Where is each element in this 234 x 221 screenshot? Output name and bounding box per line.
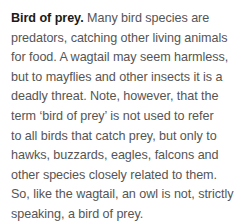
paragraph-line: hawks, buzzards, eagles, falcons and (11, 146, 222, 166)
paragraph-line: So, like the wagtail, an owl is not, str… (11, 185, 222, 205)
paragraph-line: to all birds that catch prey, but only t… (11, 127, 222, 147)
paragraph-line: for food. A wagtail may seem harmless, (11, 48, 222, 68)
paragraph-line: predators, catching other living animals (11, 29, 222, 49)
paragraph-line-1: Bird of prey. Many bird species are (11, 9, 222, 29)
paragraph-line: but to mayflies and other insects it is … (11, 68, 222, 88)
paragraph-line: term ‘bird of prey’ is not used to refer (11, 107, 222, 127)
paragraph-line: deadly threat. Note, however, that the (11, 87, 222, 107)
section-heading: Bird of prey. (11, 11, 84, 25)
paragraph-text: Many bird species are (84, 11, 210, 25)
paragraph-line: other species closely related to them. (11, 166, 222, 186)
article-paragraph: Bird of prey. Many bird species are pred… (11, 9, 222, 213)
paragraph-line: speaking, a bird of prey. (11, 205, 222, 213)
